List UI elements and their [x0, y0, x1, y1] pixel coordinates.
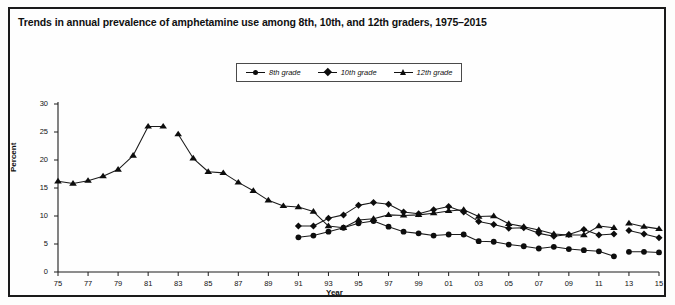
- page-title: Trends in annual prevalence of amphetami…: [18, 16, 638, 28]
- legend-label-12th-grade: 12th grade: [417, 68, 453, 77]
- x-axis-tick-label: 83: [171, 279, 185, 288]
- x-axis-tick-label: 15: [652, 279, 666, 288]
- y-axis-tick-label: 5: [32, 239, 48, 248]
- x-axis-tick-label: 07: [532, 279, 546, 288]
- y-axis-tick-label: 0: [32, 267, 48, 276]
- x-axis-tick-label: 99: [412, 279, 426, 288]
- figure-container: Trends in annual prevalence of amphetami…: [0, 0, 675, 305]
- x-axis-tick-label: 91: [291, 279, 305, 288]
- x-axis-tick-label: 75: [51, 279, 65, 288]
- y-axis-tick-label: 25: [32, 127, 48, 136]
- x-axis-tick-label: 93: [321, 279, 335, 288]
- x-axis-tick-label: 79: [111, 279, 125, 288]
- legend-item-10th-grade: 10th grade: [318, 68, 377, 77]
- x-axis-label: Year: [326, 288, 343, 297]
- x-axis-tick-label: 77: [81, 279, 95, 288]
- legend-circle-marker-icon: [246, 68, 265, 77]
- x-axis-tick-label: 81: [141, 279, 155, 288]
- x-axis-tick-label: 85: [201, 279, 215, 288]
- legend-item-8th-grade: 8th grade: [246, 68, 301, 77]
- x-axis-tick-label: 11: [592, 279, 606, 288]
- y-axis-tick-label: 20: [32, 155, 48, 164]
- legend-label-10th-grade: 10th grade: [341, 68, 377, 77]
- legend-label-8th-grade: 8th grade: [269, 68, 301, 77]
- x-axis-tick-label: 87: [231, 279, 245, 288]
- x-axis-tick-label: 95: [352, 279, 366, 288]
- legend-diamond-marker-icon: [318, 68, 337, 77]
- figure-frame: [8, 7, 666, 297]
- legend-item-12th-grade: 12th grade: [394, 68, 453, 77]
- chart-legend: 8th grade 10th grade 12th grade: [236, 63, 462, 82]
- x-axis-tick-label: 03: [472, 279, 486, 288]
- y-axis-tick-label: 15: [32, 183, 48, 192]
- x-axis-tick-label: 89: [261, 279, 275, 288]
- x-axis-tick-label: 01: [442, 279, 456, 288]
- y-axis-tick-label: 10: [32, 211, 48, 220]
- x-axis-tick-label: 09: [562, 279, 576, 288]
- y-axis-label: Percent: [9, 143, 18, 172]
- x-axis-tick-label: 97: [382, 279, 396, 288]
- y-axis-tick-label: 30: [32, 99, 48, 108]
- legend-triangle-marker-icon: [394, 68, 413, 77]
- x-axis-tick-label: 13: [622, 279, 636, 288]
- x-axis-tick-label: 05: [502, 279, 516, 288]
